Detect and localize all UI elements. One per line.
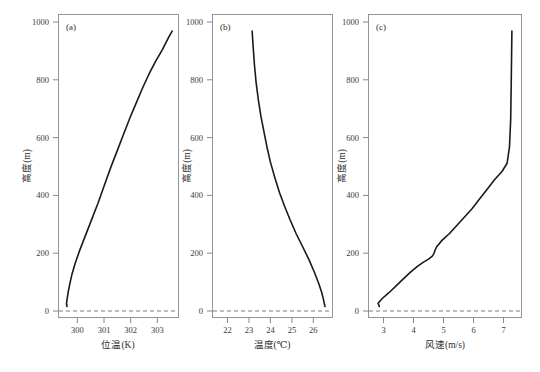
panel-b-xtick-25: 25 xyxy=(288,325,297,335)
panel-b-tag: (b) xyxy=(220,22,231,32)
panel-b-ylabel: 高度(m) xyxy=(181,149,193,183)
panel-a-ylabel: 高度(m) xyxy=(21,149,33,183)
panel-a-xtick-303: 303 xyxy=(151,325,164,335)
panel-a-xtick-300: 300 xyxy=(71,325,84,335)
panel-b-xtick-24: 24 xyxy=(266,325,275,335)
panel-b-xtick-23: 23 xyxy=(245,325,254,335)
panel-b-xtick-22: 22 xyxy=(223,325,232,335)
panel-a-xtick-301: 301 xyxy=(98,325,111,335)
panel-c-tag: (c) xyxy=(376,22,386,32)
figure-background xyxy=(0,0,540,372)
panel-a-ytick-800: 800 xyxy=(36,75,49,85)
panel-b-ytick-1000: 1000 xyxy=(186,17,203,27)
panel-c-xtick-6: 6 xyxy=(471,325,475,335)
panel-c-xlabel: 风速(m/s) xyxy=(425,340,465,351)
panel-c-xtick-7: 7 xyxy=(501,325,505,335)
panel-c-ytick-400: 400 xyxy=(346,190,359,200)
panel-b-ytick-800: 800 xyxy=(190,75,203,85)
panel-c-xtick-5: 5 xyxy=(441,325,445,335)
panel-c-ytick-200: 200 xyxy=(346,248,359,258)
panel-b-ytick-600: 600 xyxy=(190,133,203,143)
panel-b-xlabel: 温度(℃) xyxy=(254,339,291,351)
panel-a-ytick-200: 200 xyxy=(36,248,49,258)
profile-figure: (a) 0 200 400 600 800 1000 300 301 302 3… xyxy=(0,0,540,372)
panel-c-ylabel: 高度(m) xyxy=(336,149,348,183)
panel-c-xtick-3: 3 xyxy=(381,325,385,335)
panel-c-ytick-800: 800 xyxy=(346,75,359,85)
panel-b-ytick-200: 200 xyxy=(190,248,203,258)
panel-b-ytick-400: 400 xyxy=(190,190,203,200)
panel-a-ytick-0: 0 xyxy=(45,306,49,316)
panel-a-tag: (a) xyxy=(66,22,76,32)
panel-a-xtick-302: 302 xyxy=(124,325,137,335)
panel-c-ytick-1000: 1000 xyxy=(342,17,359,27)
panel-a-ytick-600: 600 xyxy=(36,133,49,143)
panel-a-ytick-1000: 1000 xyxy=(32,17,49,27)
panel-b-xtick-26: 26 xyxy=(309,325,318,335)
panel-c-ytick-600: 600 xyxy=(346,133,359,143)
panel-b-ytick-0: 0 xyxy=(199,306,203,316)
panel-c-ytick-0: 0 xyxy=(355,306,359,316)
panel-a-xlabel: 位温(K) xyxy=(101,339,134,351)
panel-a-ytick-400: 400 xyxy=(36,190,49,200)
